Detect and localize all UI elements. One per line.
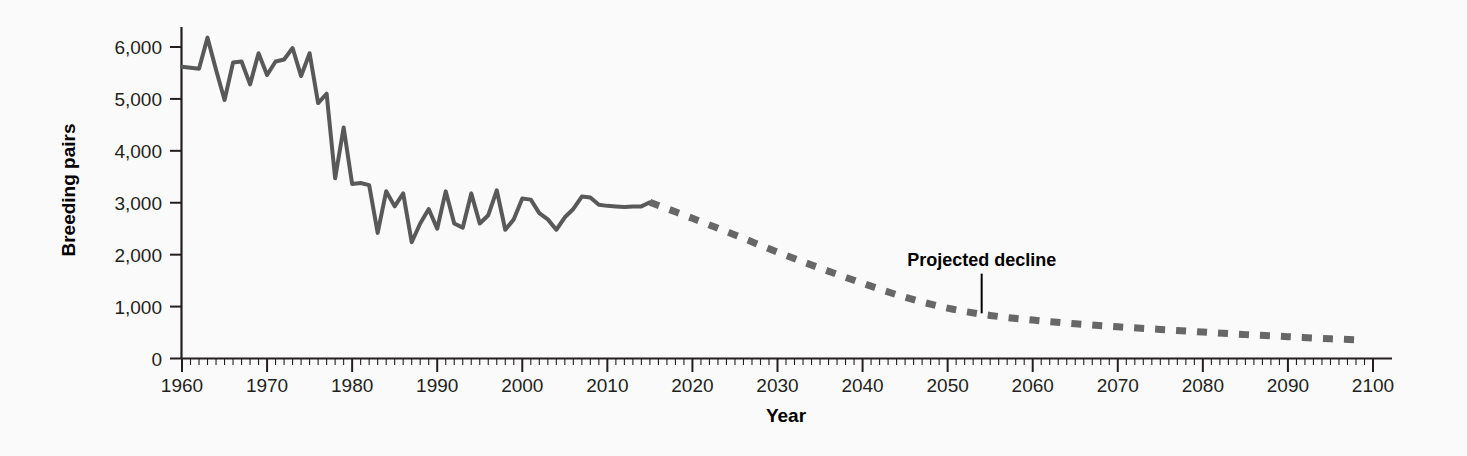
x-axis-title: Year	[766, 405, 807, 426]
x-tick-label: 2050	[927, 375, 969, 396]
x-axis-tick-labels: 1960197019801990200020102020203020402050…	[161, 375, 1394, 396]
x-tick-label: 2090	[1267, 375, 1309, 396]
line-chart: 01,0002,0003,0004,0005,0006,000 19601970…	[0, 0, 1467, 456]
y-tick-label: 0	[151, 349, 162, 370]
y-tick-label: 6,000	[114, 37, 162, 58]
x-tick-label: 1990	[416, 375, 458, 396]
x-tick-label: 2030	[756, 375, 798, 396]
y-tick-label: 1,000	[114, 297, 162, 318]
x-tick-label: 2000	[501, 375, 543, 396]
y-axis-title: Breeding pairs	[58, 123, 79, 256]
x-tick-label: 1960	[161, 375, 203, 396]
x-tick-label: 2080	[1182, 375, 1224, 396]
chart-background	[0, 0, 1467, 456]
y-tick-label: 4,000	[114, 141, 162, 162]
x-tick-label: 2070	[1097, 375, 1139, 396]
x-tick-label: 2020	[671, 375, 713, 396]
y-tick-label: 3,000	[114, 193, 162, 214]
x-tick-label: 1980	[331, 375, 373, 396]
x-tick-label: 2010	[586, 375, 628, 396]
annotation-label: Projected decline	[907, 250, 1056, 270]
x-tick-label: 1970	[246, 375, 288, 396]
y-tick-label: 2,000	[114, 245, 162, 266]
x-tick-label: 2040	[841, 375, 883, 396]
y-tick-label: 5,000	[114, 89, 162, 110]
chart-figure: 01,0002,0003,0004,0005,0006,000 19601970…	[0, 0, 1467, 456]
x-tick-label: 2060	[1012, 375, 1054, 396]
x-tick-label: 2100	[1352, 375, 1394, 396]
